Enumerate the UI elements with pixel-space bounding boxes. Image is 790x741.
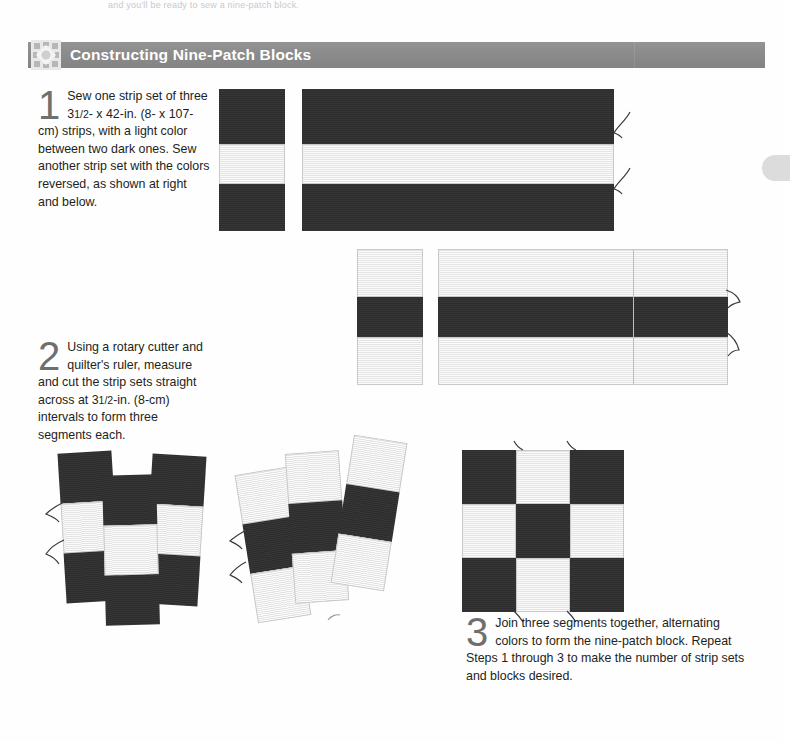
patch-light bbox=[346, 435, 407, 493]
patch-dark bbox=[219, 184, 285, 231]
step-1-body: Sew one strip set of three 31/2- x 42-in… bbox=[38, 88, 210, 211]
patch-light bbox=[331, 533, 392, 591]
seam-thread-mark bbox=[326, 612, 342, 624]
seam-thread-mark bbox=[612, 166, 634, 200]
patch-light bbox=[516, 558, 570, 612]
patch-dark bbox=[150, 453, 207, 506]
patch-light bbox=[103, 524, 158, 575]
patch-light bbox=[462, 504, 516, 558]
nine-patch-block bbox=[462, 450, 624, 612]
nine-patch-star-icon bbox=[31, 40, 61, 70]
patch-dark bbox=[302, 89, 614, 144]
step-3-text: 3 Join three segments together, alternat… bbox=[466, 615, 746, 685]
seam-thread-mark bbox=[228, 560, 248, 586]
cut-line bbox=[633, 250, 634, 384]
patch-light bbox=[516, 450, 570, 504]
patch-dark bbox=[438, 297, 728, 337]
patch-dark bbox=[102, 474, 157, 525]
patch-dark bbox=[570, 450, 624, 504]
patch-dark bbox=[462, 450, 516, 504]
page-top-bleed-text: and you'll be ready to sew a nine-patch … bbox=[108, 0, 668, 11]
patch-light bbox=[438, 337, 728, 385]
patch-dark bbox=[516, 504, 570, 558]
step-3-number: 3 bbox=[466, 617, 488, 647]
step-2-text: 2 Using a rotary cutter and quilter's ru… bbox=[38, 339, 210, 445]
patch-light bbox=[285, 450, 342, 504]
patch-light bbox=[570, 504, 624, 558]
patch-light bbox=[357, 249, 423, 297]
step-2-number: 2 bbox=[38, 341, 60, 371]
patch-dark bbox=[462, 558, 516, 612]
patch-dark bbox=[302, 184, 614, 231]
patch-light bbox=[438, 249, 728, 297]
section-title: Constructing Nine-Patch Blocks bbox=[70, 42, 311, 68]
patch-light bbox=[219, 144, 285, 184]
step-1-number: 1 bbox=[38, 90, 60, 120]
step-3-body: Join three segments together, alternatin… bbox=[466, 615, 746, 685]
patch-dark bbox=[105, 574, 160, 625]
patch-dark bbox=[338, 484, 399, 542]
patch-light bbox=[302, 144, 614, 184]
patch-dark bbox=[357, 297, 423, 337]
patch-light bbox=[357, 337, 423, 385]
page-thumb-tab bbox=[762, 155, 790, 181]
step-1-text: 1 Sew one strip set of three 31/2- x 42-… bbox=[38, 88, 210, 211]
seam-thread-mark bbox=[612, 110, 634, 144]
patch-dark bbox=[219, 89, 285, 144]
patch-dark bbox=[570, 558, 624, 612]
segment-dark-light-dark bbox=[102, 474, 160, 625]
segment-light-dark-light bbox=[331, 435, 408, 592]
step-2-body: Using a rotary cutter and quilter's rule… bbox=[38, 339, 210, 445]
